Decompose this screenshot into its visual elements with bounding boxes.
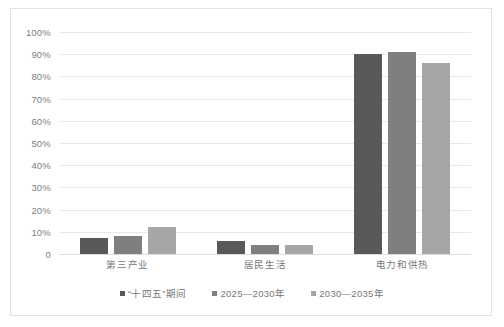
legend-swatch-icon xyxy=(120,291,125,296)
bar-group xyxy=(196,32,333,254)
bar[interactable] xyxy=(285,245,313,254)
gridline xyxy=(59,254,471,255)
legend-item[interactable]: “十四五”期间 xyxy=(120,286,186,300)
chart-legend: “十四五”期间2025—2030年2030—2035年 xyxy=(11,286,493,300)
bar[interactable] xyxy=(388,52,416,254)
y-axis-tick-label: 50% xyxy=(31,138,51,149)
y-axis-tick-label: 80% xyxy=(31,71,51,82)
x-axis-tick-label: 电力和供热 xyxy=(376,257,429,271)
bar[interactable] xyxy=(80,238,108,254)
bar[interactable] xyxy=(148,227,176,254)
y-axis-tick-label: 70% xyxy=(31,93,51,104)
bar[interactable] xyxy=(251,245,279,254)
bar-group xyxy=(334,32,471,254)
legend-item[interactable]: 2025—2030年 xyxy=(212,286,285,300)
y-axis-tick-label: 10% xyxy=(31,226,51,237)
bars-layer xyxy=(59,32,471,254)
legend-item[interactable]: 2030—2035年 xyxy=(311,286,384,300)
y-axis-tick-label: 20% xyxy=(31,204,51,215)
bar[interactable] xyxy=(114,236,142,254)
y-axis-tick-label: 30% xyxy=(31,182,51,193)
y-axis-tick-label: 40% xyxy=(31,160,51,171)
bar[interactable] xyxy=(422,63,450,254)
chart-frame: 100%90%80%70%60%50%40%30%20%10%0 第三产业居民生… xyxy=(10,8,492,316)
y-axis-tick-label: 100% xyxy=(26,27,51,38)
y-axis-tick-label: 60% xyxy=(31,115,51,126)
bar[interactable] xyxy=(354,54,382,254)
bar[interactable] xyxy=(217,241,245,254)
legend-swatch-icon xyxy=(212,291,217,296)
x-axis: 第三产业居民生活电力和供热 xyxy=(59,257,471,277)
y-axis-tick-label: 0 xyxy=(46,249,51,260)
y-axis: 100%90%80%70%60%50%40%30%20%10%0 xyxy=(11,32,55,254)
legend-label: 2030—2035年 xyxy=(319,286,384,300)
plot-area xyxy=(59,32,471,254)
legend-swatch-icon xyxy=(311,291,316,296)
y-axis-tick-label: 90% xyxy=(31,49,51,60)
legend-label: 2025—2030年 xyxy=(220,286,285,300)
x-axis-tick-label: 第三产业 xyxy=(106,257,148,271)
bar-group xyxy=(59,32,196,254)
x-axis-tick-label: 居民生活 xyxy=(244,257,286,271)
legend-label: “十四五”期间 xyxy=(128,286,186,300)
